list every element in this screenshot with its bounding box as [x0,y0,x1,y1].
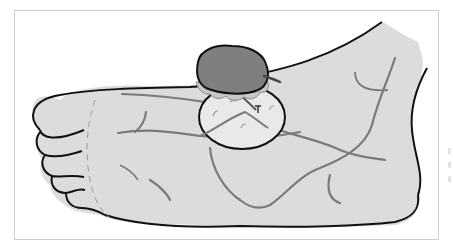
edge-mark [448,148,451,154]
edge-mark [448,176,451,182]
raised-mass [197,46,268,94]
edge-marks [448,148,451,198]
foot-illustration [0,0,453,252]
edge-mark [448,162,451,168]
